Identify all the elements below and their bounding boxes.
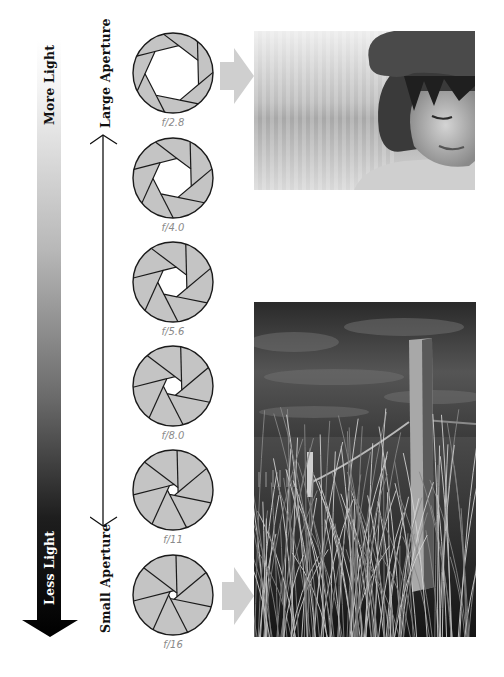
small-aperture-label: Small Aperture <box>98 524 113 633</box>
right-arrow-icon <box>220 48 254 104</box>
more-light-label: More Light <box>42 45 57 125</box>
aperture-blades-icon <box>131 344 215 428</box>
fstop-label: f/8.0 <box>133 430 213 441</box>
pointer-arrow-bottom <box>222 567 254 625</box>
aperture-blades-icon <box>131 448 215 532</box>
fstop-label: f/11 <box>133 534 213 545</box>
aperture-blades-icon <box>131 136 215 220</box>
aperture-f5-6 <box>131 240 215 324</box>
aperture-blades-icon <box>131 553 215 637</box>
photo-shallow-depth-portrait <box>254 31 475 190</box>
aperture-f16 <box>131 553 215 637</box>
portrait-image <box>254 31 475 190</box>
aperture-f2-8 <box>131 31 215 115</box>
fstop-label: f/5.6 <box>133 326 213 337</box>
aperture-f4-0 <box>131 136 215 220</box>
aperture-blades-icon <box>131 240 215 324</box>
fstop-label: f/2.8 <box>133 117 213 128</box>
less-light-label: Less Light <box>42 531 57 605</box>
fstop-label: f/4.0 <box>133 222 213 233</box>
photo-deep-depth-landscape <box>254 302 476 637</box>
landscape-image <box>254 302 476 637</box>
large-aperture-label: Large Aperture <box>98 18 113 128</box>
double-arrow-icon <box>90 130 130 530</box>
aperture-range-arrow <box>90 130 130 530</box>
aperture-f8-0 <box>131 344 215 428</box>
pointer-arrow-top <box>220 48 254 104</box>
aperture-f11 <box>131 448 215 532</box>
fstop-label: f/16 <box>133 639 213 650</box>
aperture-blades-icon <box>131 31 215 115</box>
right-arrow-icon <box>222 567 254 625</box>
